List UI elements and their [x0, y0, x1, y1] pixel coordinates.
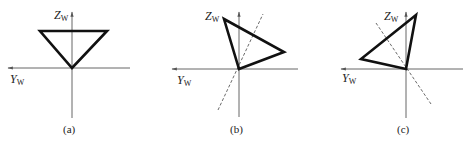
panel-caption: (c) [397, 123, 410, 136]
panel-c: ZW YW (c) [341, 9, 463, 136]
panel-a: ZW YW (a) [8, 8, 130, 136]
z-axis-label: ZW [54, 8, 69, 23]
triangle [224, 19, 284, 69]
y-axis-label: YW [177, 73, 192, 88]
panel-caption: (a) [63, 123, 76, 136]
y-axis-label: YW [342, 71, 357, 86]
panel-b: ZW YW (b) [172, 9, 298, 136]
z-axis-label: ZW [384, 9, 399, 24]
figure-canvas: ZW YW (a) ZW YW (b) ZW YW (c) [0, 0, 466, 141]
panel-caption: (b) [230, 123, 243, 136]
y-axis-label: YW [10, 72, 25, 87]
z-axis-label: ZW [205, 9, 220, 24]
triangle [40, 31, 107, 68]
